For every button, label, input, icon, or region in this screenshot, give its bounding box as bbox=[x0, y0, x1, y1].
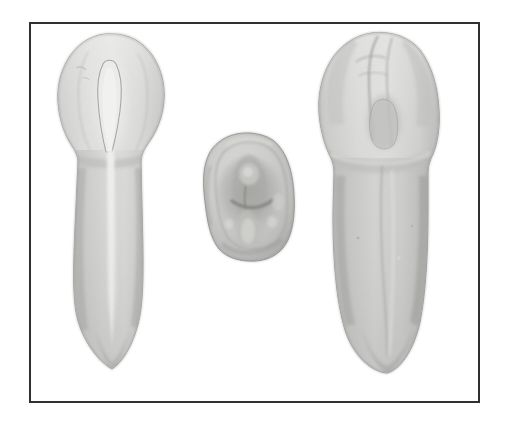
tooth-anatomy-figure: Buccal view Occlusal view Proximal view bbox=[0, 0, 509, 425]
view-buccal bbox=[50, 28, 175, 380]
tooth-drawing-canvas bbox=[0, 0, 509, 425]
view-proximal bbox=[310, 26, 450, 384]
view-occlusal bbox=[198, 128, 302, 268]
